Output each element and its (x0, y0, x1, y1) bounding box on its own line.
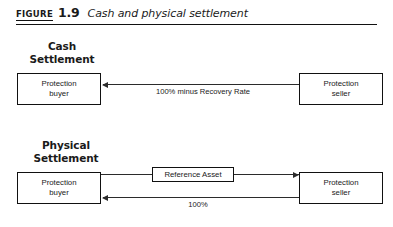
payment-arrowhead-icon (102, 195, 108, 201)
caption-divider (16, 24, 377, 25)
asset-connector-left (101, 174, 152, 175)
cash-settlement-heading-line2: Settlement (30, 53, 95, 65)
asset-connector-right (234, 174, 299, 175)
physical-settlement-heading: Physical Settlement (22, 139, 110, 164)
figure-title: Cash and physical settlement (88, 7, 248, 20)
reference-asset-box: Reference Asset (152, 167, 234, 182)
cash-settlement-heading: Cash Settlement (22, 40, 102, 65)
physical-protection-buyer-box: Protection buyer (17, 172, 101, 204)
cash-settlement-heading-line1: Cash (48, 40, 76, 52)
cash-protection-buyer-box: Protection buyer (17, 73, 101, 105)
payment-label: 100% (168, 200, 228, 210)
figure-label: FIGURE (16, 9, 53, 21)
cash-flow-label: 100% minus Recovery Rate (141, 87, 265, 97)
figure-number: 1.9 (58, 6, 80, 19)
asset-flow-arrowhead-icon (293, 172, 299, 178)
cash-protection-seller-line1: Protection (323, 79, 358, 89)
cash-flow-arrowhead-icon (102, 82, 108, 88)
cash-protection-seller-line2: seller (332, 89, 351, 99)
physical-protection-seller-box: Protection seller (299, 172, 383, 204)
figure-caption: FIGURE 1.9 Cash and physical settlement (16, 6, 248, 21)
cash-protection-buyer-line1: Protection (41, 79, 76, 89)
reference-asset-label: Reference Asset (164, 170, 221, 180)
physical-settlement-heading-line1: Physical (42, 139, 90, 151)
physical-protection-buyer-line1: Protection (41, 178, 76, 188)
physical-settlement-heading-line2: Settlement (34, 152, 99, 164)
physical-protection-buyer-line2: buyer (49, 188, 69, 198)
payment-connector (103, 197, 299, 198)
cash-protection-seller-box: Protection seller (299, 73, 383, 105)
cash-flow-connector (103, 84, 299, 85)
physical-protection-seller-line2: seller (332, 188, 351, 198)
physical-protection-seller-line1: Protection (323, 178, 358, 188)
cash-protection-buyer-line2: buyer (49, 89, 69, 99)
